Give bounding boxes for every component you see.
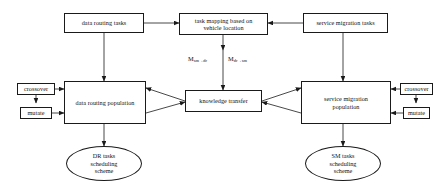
edge-kt-to-smpop <box>262 88 301 101</box>
diagram-canvas: data routing tasks task mapping based on… <box>0 0 447 190</box>
node-task-mapping-label-line2: vehicle location <box>182 24 265 31</box>
node-dr-scheduling-scheme[interactable]: DR tasks scheduling scheme <box>66 146 142 181</box>
node-mutate-right-label: mutate <box>406 109 427 116</box>
node-mutate-left-label: mutate <box>23 109 49 116</box>
node-crossover-right[interactable]: crossover <box>400 83 433 95</box>
edge-label-m-sm-to-dr-sub: sm→dr <box>194 58 207 63</box>
node-service-migration-population-label-line2: population <box>304 103 388 110</box>
node-mutate-right[interactable]: mutate <box>403 107 430 119</box>
edge-label-m-sm-to-dr-base: M <box>188 55 194 62</box>
node-dr-scheduling-scheme-line3: scheme <box>91 167 118 175</box>
edge-label-m-dr-to-sm: Mdr→sm <box>228 55 247 62</box>
node-service-migration-population-label-line1: service migration <box>304 95 388 102</box>
node-sm-scheduling-scheme[interactable]: SM tasks scheduling scheme <box>305 146 381 181</box>
node-sm-scheduling-scheme-line3: scheme <box>330 167 357 175</box>
node-service-migration-population[interactable]: service migration population <box>301 81 391 124</box>
node-task-mapping[interactable]: task mapping based on vehicle location <box>179 13 268 35</box>
node-knowledge-transfer[interactable]: knowledge transfer <box>185 90 262 112</box>
edge-kt-to-drpop <box>146 88 185 101</box>
edge-label-m-dr-to-sm-base: M <box>228 55 234 62</box>
node-dr-scheduling-scheme-line2: scheduling <box>91 160 118 168</box>
edge-label-m-dr-to-sm-sub: dr→sm <box>234 58 247 63</box>
node-sm-scheduling-scheme-line2: scheduling <box>330 160 357 168</box>
node-crossover-right-label: crossover <box>403 85 430 92</box>
node-service-migration-tasks-label: service migration tasks <box>306 19 385 26</box>
node-data-routing-tasks[interactable]: data routing tasks <box>64 13 144 33</box>
node-sm-scheduling-scheme-line1: SM tasks <box>330 152 357 160</box>
edge-smpop-to-kt <box>262 102 301 113</box>
edge-label-m-sm-to-dr: Msm→dr <box>188 55 207 62</box>
node-knowledge-transfer-label: knowledge transfer <box>188 97 259 104</box>
node-data-routing-tasks-label: data routing tasks <box>67 19 141 26</box>
node-dr-scheduling-scheme-line1: DR tasks <box>91 152 118 160</box>
edge-drpop-to-kt <box>146 102 185 113</box>
node-task-mapping-label-line1: task mapping based on <box>182 17 265 24</box>
node-service-migration-tasks[interactable]: service migration tasks <box>303 13 388 33</box>
node-data-routing-population[interactable]: data routing population <box>64 81 146 124</box>
node-crossover-left-label: crossover <box>20 85 52 92</box>
node-data-routing-population-label: data routing population <box>67 99 143 106</box>
node-crossover-left[interactable]: crossover <box>17 83 55 95</box>
node-mutate-left[interactable]: mutate <box>20 107 52 119</box>
